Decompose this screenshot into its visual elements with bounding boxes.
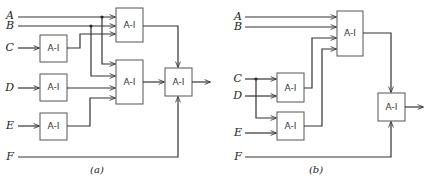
input-label-e: E: [233, 126, 242, 139]
input-label-c: C: [6, 41, 15, 54]
caption-b: (b): [309, 164, 323, 175]
block-b-out-label: A-I: [386, 102, 398, 112]
block-a-e-label: A-I: [48, 121, 60, 131]
block-a-out-label: A-I: [173, 77, 185, 87]
input-label-c: C: [234, 72, 243, 85]
input-label-f: F: [5, 150, 14, 163]
block-a-d-label: A-I: [48, 82, 60, 92]
block-a-c-label: A-I: [48, 43, 60, 53]
input-label-d: D: [232, 89, 242, 102]
block-b-e-label: A-I: [285, 121, 297, 131]
wire-f-to-out: [245, 122, 391, 157]
block-b-top-label: A-I: [344, 28, 356, 38]
diagram-b: A B C D E F A-I A-I A-I A-I: [232, 10, 423, 175]
wire-top-to-out: [143, 26, 178, 67]
block-b-cd-label: A-I: [285, 83, 297, 93]
wire-e-to-mid: [67, 98, 115, 126]
input-label-d: D: [4, 81, 14, 94]
caption-a: (a): [90, 164, 104, 175]
block-a-top-label: A-I: [124, 20, 136, 30]
wire-cd-to-top: [304, 38, 336, 88]
diagram-a: A B C D E F A-I A-I A-I A-I: [4, 8, 210, 175]
input-label-e: E: [5, 119, 14, 132]
wire-c-to-e-block: [256, 79, 276, 118]
input-label-f: F: [233, 150, 242, 163]
block-a-mid-label: A-I: [124, 77, 136, 87]
diagram-canvas: A B C D E F A-I A-I A-I A-I: [0, 0, 432, 181]
input-label-b: B: [5, 19, 14, 32]
input-label-b: B: [233, 20, 242, 33]
wire-top-to-out: [363, 33, 391, 92]
wire-a-to-mid: [102, 17, 115, 64]
